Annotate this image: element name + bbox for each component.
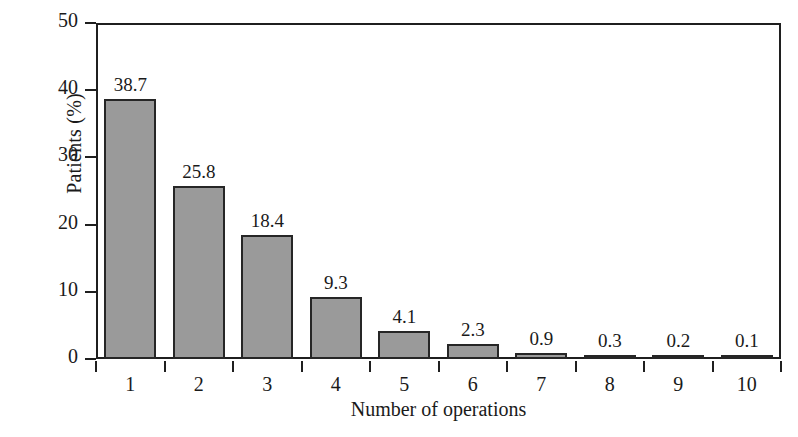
x-tick-label: 8 (576, 373, 644, 396)
bar (173, 186, 225, 359)
bar (447, 344, 499, 359)
x-tick-mark (95, 361, 97, 372)
x-tick-mark (438, 361, 440, 372)
x-tick-label: 10 (713, 373, 781, 396)
x-tick-label: 9 (644, 373, 712, 396)
bar-value-label: 0.9 (507, 328, 575, 350)
x-tick-mark (643, 361, 645, 372)
bar (310, 297, 362, 359)
y-tick-mark (85, 156, 96, 158)
bar (104, 99, 156, 359)
y-tick-mark (85, 22, 96, 24)
y-tick-mark (85, 291, 96, 293)
x-tick-label: 5 (370, 373, 438, 396)
x-tick-mark (780, 361, 782, 372)
chart-figure: Patients (%) 01020304050 38.725.818.49.3… (0, 0, 798, 437)
bar (584, 355, 636, 359)
x-tick-mark (712, 361, 714, 372)
y-tick-label: 30 (58, 143, 78, 166)
y-tick-label: 10 (58, 278, 78, 301)
x-tick-label: 6 (439, 373, 507, 396)
x-tick-label: 4 (302, 373, 370, 396)
x-tick-mark (301, 361, 303, 372)
y-tick-label: 0 (68, 345, 78, 368)
x-tick-label: 1 (96, 373, 164, 396)
x-tick-mark (369, 361, 371, 372)
y-tick-label: 40 (58, 76, 78, 99)
x-tick-mark (506, 361, 508, 372)
bar (721, 355, 773, 359)
bar-value-label: 25.8 (165, 161, 233, 183)
x-tick-label: 3 (233, 373, 301, 396)
y-tick-mark (85, 358, 96, 360)
x-tick-label: 7 (507, 373, 575, 396)
bar (652, 355, 704, 359)
x-tick-mark (575, 361, 577, 372)
bar-value-label: 0.1 (713, 330, 781, 352)
x-axis-title: Number of operations (96, 398, 781, 421)
bar-value-label: 0.3 (576, 330, 644, 352)
bar (241, 235, 293, 359)
bar-value-label: 9.3 (302, 272, 370, 294)
y-tick-mark (85, 89, 96, 91)
bar (515, 353, 567, 359)
bar-value-label: 18.4 (233, 210, 301, 232)
x-tick-mark (164, 361, 166, 372)
bar-value-label: 38.7 (96, 74, 164, 96)
bar-value-label: 0.2 (644, 330, 712, 352)
bar (378, 331, 430, 359)
x-tick-mark (232, 361, 234, 372)
bar-value-label: 2.3 (439, 319, 507, 341)
bar-value-label: 4.1 (370, 306, 438, 328)
y-tick-label: 20 (58, 211, 78, 234)
y-tick-mark (85, 224, 96, 226)
y-tick-label: 50 (58, 9, 78, 32)
x-tick-label: 2 (165, 373, 233, 396)
